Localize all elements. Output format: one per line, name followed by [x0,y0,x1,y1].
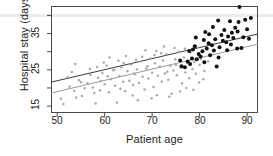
black-point-series [178,5,253,69]
figure-scatter-hospital-stay: Hospital stay (days) Patient age 35 25 1… [0,0,273,156]
plot-canvas [0,0,273,156]
